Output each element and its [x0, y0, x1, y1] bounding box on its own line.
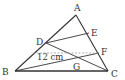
label-a: A	[73, 3, 81, 13]
side-ab	[15, 15, 76, 71]
label-c: C	[111, 69, 118, 79]
measurement-label: 12 cm	[37, 52, 63, 62]
label-b: B	[2, 67, 9, 77]
triangle-diagram: A B C D E F G 12 cm	[0, 0, 125, 80]
label-f: F	[101, 47, 107, 57]
label-g: G	[73, 62, 80, 72]
segment-de	[46, 33, 89, 43]
label-d: D	[36, 37, 43, 47]
label-e: E	[91, 28, 98, 38]
side-ac	[76, 15, 108, 71]
